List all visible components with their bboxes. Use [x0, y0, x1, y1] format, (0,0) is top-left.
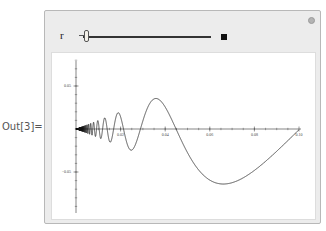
slider-label-r: r — [60, 29, 64, 41]
line-chart: 0.020.040.060.080.100.05−0.05 — [52, 53, 315, 219]
slider-r[interactable] — [83, 36, 211, 38]
svg-text:0.04: 0.04 — [162, 132, 169, 137]
svg-text:−0.05: −0.05 — [62, 169, 71, 174]
axes: 0.020.040.060.080.100.05−0.05 — [62, 53, 303, 213]
svg-text:0.02: 0.02 — [117, 132, 124, 137]
output-label: Out[3]= — [2, 121, 43, 132]
svg-text:0.05: 0.05 — [64, 83, 71, 88]
animation-controls-toggle[interactable] — [221, 34, 227, 40]
svg-text:0.10: 0.10 — [296, 132, 303, 137]
svg-text:0.08: 0.08 — [251, 132, 258, 137]
slider-thumb[interactable] — [84, 30, 89, 42]
gear-icon[interactable] — [308, 17, 315, 24]
plot-area: 0.020.040.060.080.100.05−0.05 — [51, 52, 316, 220]
curve-series — [76, 98, 299, 184]
svg-text:0.06: 0.06 — [206, 132, 213, 137]
manipulate-panel: r 0.020.040.060.080.100.05−0.05 — [44, 10, 321, 224]
